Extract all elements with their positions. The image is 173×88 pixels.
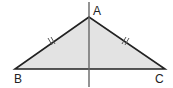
triangle-diagram: A B C (0, 0, 173, 88)
triangle-abc (15, 17, 165, 69)
vertex-label-a: A (93, 4, 101, 18)
vertex-label-b: B (14, 72, 22, 86)
vertex-label-c: C (155, 72, 164, 86)
